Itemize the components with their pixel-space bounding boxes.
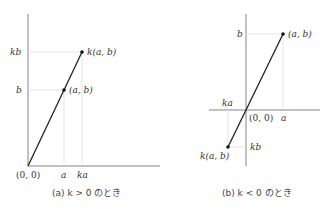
x-tick-a: a [281, 113, 286, 123]
diagram-canvas: kb b a ka (0, 0) (a, b) k(a, b) (a) k > … [0, 0, 321, 214]
caption-b: (b) k < 0 のとき [222, 188, 292, 198]
point-kab [226, 145, 230, 149]
origin-label: (0, 0) [249, 113, 273, 123]
y-tick-b: b [16, 85, 22, 95]
point-kab-label: k(a, b) [87, 47, 117, 57]
x-tick-ka: ka [222, 98, 233, 108]
point-ab-label: (a, b) [69, 85, 93, 95]
point-kab-label: k(a, b) [200, 151, 230, 161]
point-ab-label: (a, b) [288, 29, 312, 39]
x-tick-a: a [61, 170, 66, 180]
y-tick-kb: kb [250, 142, 261, 152]
point-kab [80, 50, 84, 54]
panel-a: kb b a ka (0, 0) (a, b) k(a, b) (a) k > … [10, 14, 160, 198]
caption-a: (a) k > 0 のとき [52, 188, 121, 198]
vector-line [228, 34, 283, 147]
point-ab [62, 88, 66, 92]
y-tick-b: b [237, 29, 243, 39]
y-tick-kb: kb [10, 47, 21, 57]
vector-line [28, 52, 82, 166]
origin-label: (0, 0) [16, 170, 40, 180]
point-ab [281, 32, 285, 36]
x-tick-ka: ka [77, 170, 88, 180]
panel-b: b kb a ka (0, 0) (a, b) k(a, b) (b) k < … [200, 14, 320, 198]
